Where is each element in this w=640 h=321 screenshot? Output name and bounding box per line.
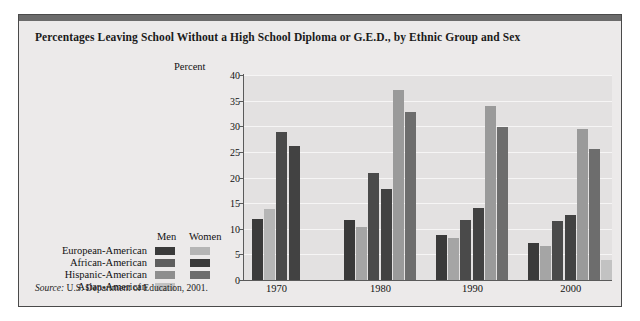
y-axis-tick-label: 30 [206,121,240,132]
figure-page: Percentages Leaving School Without a Hig… [0,0,640,321]
bar [276,132,287,280]
y-axis-tick-mark [239,152,243,153]
legend-item: African-American [35,257,235,269]
bar [264,209,275,280]
y-axis-tick-mark [239,101,243,102]
bar [497,127,508,280]
plot-area [244,75,612,280]
bar [589,149,600,280]
x-axis-tick-label: 1990 [462,283,483,294]
legend-item-label: African-American [70,257,147,269]
y-axis-tick-mark [239,254,243,255]
source-text: U.S. Department of Education, 2001. [64,283,208,293]
bar [448,238,459,280]
bar [460,220,471,280]
bar [436,235,447,280]
legend-swatch-men [155,271,175,279]
gridline [244,126,612,127]
legend-item-label: Hispanic-American [65,269,147,281]
y-axis-tick-mark [239,280,243,281]
bar [485,106,496,280]
y-axis-tick-mark [239,75,243,76]
bar [344,220,355,280]
bar [368,173,379,280]
y-axis-tick-label: 40 [206,70,240,81]
legend-swatch-men [155,247,175,255]
bar [473,208,484,280]
x-axis-tick-label: 1980 [370,283,391,294]
x-axis-tick-label: 2000 [560,283,581,294]
bar [393,90,404,280]
legend-item: European-American [35,245,235,257]
card-top-rule [19,15,621,21]
page-title: Percentages Leaving School Without a Hig… [35,31,605,43]
legend-swatch-women [190,247,210,255]
bar [405,112,416,280]
y-axis-tick-mark [239,203,243,204]
bar [540,246,551,280]
source-label: Source: [35,283,64,293]
legend-header-row: Men Women [35,231,235,245]
legend-item: Hispanic-American [35,269,235,281]
legend-item-label: European-American [62,245,147,257]
bar [552,221,563,280]
bar [601,260,612,280]
y-axis-tick-label: 20 [206,172,240,183]
gridline [244,75,612,76]
figure-card: Percentages Leaving School Without a Hig… [18,14,622,307]
y-axis-tick-label: 15 [206,198,240,209]
y-axis-tick-mark [239,229,243,230]
bar [565,215,576,280]
source-note: Source: U.S. Department of Education, 20… [35,283,208,293]
y-axis-tick-mark [239,126,243,127]
legend-swatch-women [190,271,210,279]
x-axis-line [243,280,612,281]
legend-header-men: Men [157,231,176,242]
bar [289,146,300,280]
bar [356,227,367,280]
x-axis-tick-label: 1970 [266,283,287,294]
y-axis-tick-label: 35 [206,95,240,106]
bar [252,219,263,280]
y-axis-tick-label: 25 [206,146,240,157]
legend-swatch-men [155,259,175,267]
legend-swatch-women [190,259,210,267]
legend-header-women: Women [189,231,221,242]
gridline [244,101,612,102]
bar [381,189,392,280]
y-axis-title: Percent [174,61,206,72]
bar [528,243,539,280]
y-axis-tick-mark [239,178,243,179]
bar [577,129,588,280]
